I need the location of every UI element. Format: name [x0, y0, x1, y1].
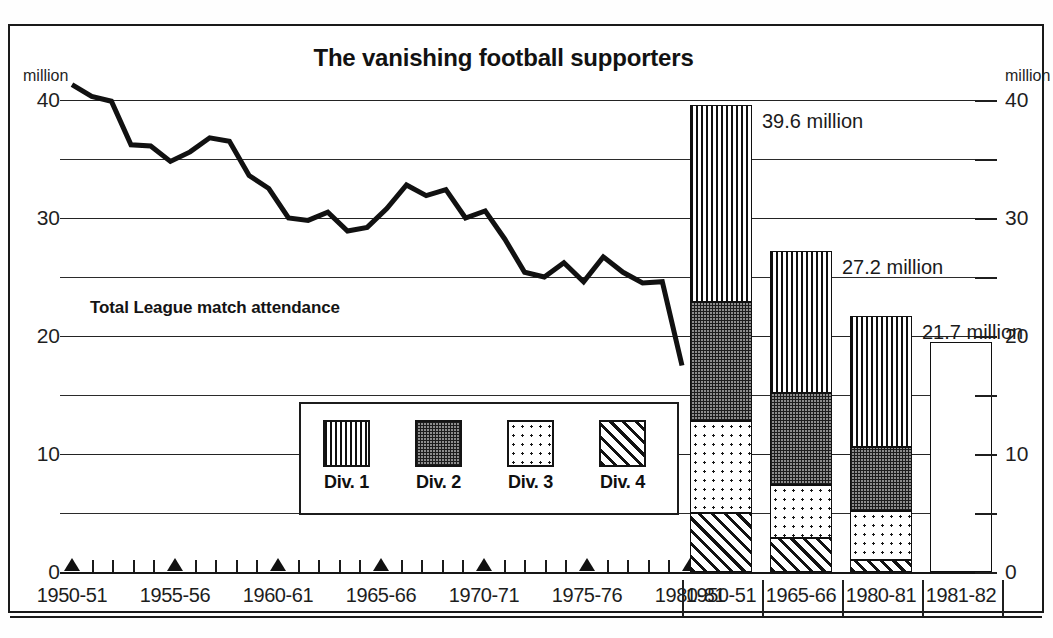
- x-axis-label-1950-51: 1950-51: [20, 584, 124, 607]
- bar-segment-1950-51-div1: [690, 105, 752, 302]
- bar-segment-1980-81-div4: [850, 560, 912, 572]
- x-tick-14: [359, 560, 361, 572]
- legend-swatch-div2: [415, 420, 462, 467]
- x-tick-1: [92, 560, 94, 572]
- x-tick-27: [627, 560, 629, 572]
- x-tick-8: [236, 560, 238, 572]
- label-strip-rule: [10, 616, 1042, 618]
- legend-label-div4: Div. 4: [599, 472, 646, 493]
- bar-axis-tick-0: [975, 572, 997, 574]
- legend-item-2[interactable]: Div. 2: [415, 420, 462, 493]
- bar-total-annotation-0: 39.6 million: [762, 110, 863, 133]
- bar-axis-tick-10: [975, 454, 997, 456]
- legend-swatch-div1: [323, 420, 370, 467]
- bar-label-separator-4: [1002, 580, 1004, 616]
- x-tick-26: [607, 560, 609, 572]
- x-tick-12: [318, 560, 320, 572]
- x-tick-13: [339, 560, 341, 572]
- x-tick-17: [421, 560, 423, 572]
- x-tick-9: [256, 560, 258, 572]
- bar-segment-1980-81-div1: [850, 316, 912, 447]
- bar-axis-tick-30: [975, 218, 997, 220]
- x-tick-28: [648, 560, 650, 572]
- x-tick-marker-20: [476, 558, 492, 571]
- x-tick-22: [524, 560, 526, 572]
- legend-swatch-div4: [599, 420, 646, 467]
- x-tick-7: [215, 560, 217, 572]
- x-axis-label-1970-71: 1970-71: [432, 584, 536, 607]
- legend-label-div1: Div. 1: [323, 472, 370, 493]
- x-tick-6: [195, 560, 197, 572]
- x-tick-2: [112, 560, 114, 572]
- legend-item-1[interactable]: Div. 1: [323, 420, 370, 493]
- x-tick-29: [668, 560, 670, 572]
- x-tick-11: [298, 560, 300, 572]
- bar-segment-1950-51-div4: [690, 513, 752, 572]
- xaxis-rule: [60, 572, 997, 574]
- attendance-line: [72, 85, 682, 366]
- bar-segment-1965-66-div2: [770, 393, 832, 485]
- x-axis-label-1955-56: 1955-56: [123, 584, 227, 607]
- x-tick-21: [504, 560, 506, 572]
- bar-axis-tick-15: [975, 395, 997, 397]
- legend-label-div2: Div. 2: [415, 472, 462, 493]
- x-axis-label-1960-61: 1960-61: [226, 584, 330, 607]
- x-tick-4: [153, 560, 155, 572]
- chart-frame: 403020100million403020100millionThe vani…: [8, 24, 1044, 613]
- x-tick-marker-0: [64, 558, 80, 571]
- bar-segment-1981-82-total: [930, 342, 992, 572]
- legend-label-div3: Div. 3: [507, 472, 554, 493]
- legend-swatch-div3: [507, 420, 554, 467]
- x-axis-label-1965-66: 1965-66: [329, 584, 433, 607]
- x-tick-23: [545, 560, 547, 572]
- bar-segment-1980-81-div2: [850, 447, 912, 511]
- bar-axis-tick-25: [975, 277, 997, 279]
- bar-segment-1965-66-div3: [770, 485, 832, 538]
- x-tick-marker-25: [579, 558, 595, 571]
- x-tick-24: [565, 560, 567, 572]
- x-tick-18: [442, 560, 444, 572]
- bar-axis-tick-20: [975, 336, 997, 338]
- x-tick-16: [401, 560, 403, 572]
- x-tick-3: [133, 560, 135, 572]
- x-tick-marker-10: [270, 558, 286, 571]
- chart-page: 403020100million403020100millionThe vani…: [0, 0, 1053, 638]
- bar-total-annotation-1: 27.2 million: [842, 256, 943, 279]
- legend-item-4[interactable]: Div. 4: [599, 420, 646, 493]
- bar-axis-label-1965-66: 1965-66: [761, 584, 841, 607]
- x-tick-19: [462, 560, 464, 572]
- bar-axis-label-1981-82: 1981-82: [921, 584, 1001, 607]
- bar-total-annotation-2: 21.7 million: [922, 321, 1023, 344]
- bar-axis-tick-40: [975, 100, 997, 102]
- bar-axis-label-1950-51: 1950-51: [681, 584, 761, 607]
- legend-item-3[interactable]: Div. 3: [507, 420, 554, 493]
- bar-segment-1980-81-div3: [850, 511, 912, 561]
- bar-segment-1965-66-div4: [770, 538, 832, 572]
- bar-segment-1950-51-div3: [690, 421, 752, 513]
- bar-segment-1950-51-div2: [690, 302, 752, 421]
- bar-segment-1965-66-div1: [770, 251, 832, 393]
- x-axis-label-1975-76: 1975-76: [535, 584, 639, 607]
- legend: Div. 1Div. 2Div. 3Div. 4: [299, 402, 679, 515]
- bar-axis-tick-35: [975, 159, 997, 161]
- x-tick-marker-5: [167, 558, 183, 571]
- x-tick-marker-15: [373, 558, 389, 571]
- plot-area: 403020100million403020100millionThe vani…: [10, 26, 1042, 611]
- bar-axis-tick-5: [975, 513, 997, 515]
- bar-axis-label-1980-81: 1980-81: [841, 584, 921, 607]
